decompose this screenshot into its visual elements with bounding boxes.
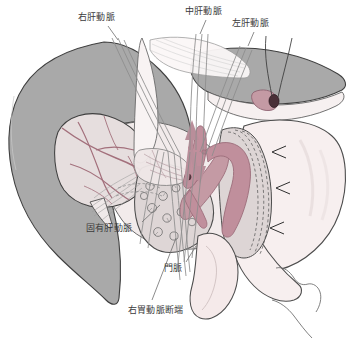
duodenum — [190, 233, 238, 319]
leader-middle-hepatic — [200, 20, 206, 34]
label-left-hepatic-artery: 左肝動脈 — [232, 18, 269, 29]
label-proper-hepatic-artery: 固有肝動脈 — [86, 223, 132, 234]
leader-right-hepatic — [108, 26, 118, 40]
label-middle-hepatic-artery: 中肝動脈 — [185, 6, 222, 17]
illustration-root: 右肝動脈 中肝動脈 左肝動脈 固有肝動脈 門脈 右胃動脈断端 — [0, 0, 349, 346]
anatomical-illustration — [0, 0, 349, 346]
label-right-hepatic-artery: 右肝動脈 — [78, 12, 115, 23]
label-right-gastric-stump: 右胃動脈断端 — [128, 305, 183, 316]
label-portal-vein: 門脈 — [164, 263, 182, 274]
leader-left-hepatic — [248, 32, 254, 46]
